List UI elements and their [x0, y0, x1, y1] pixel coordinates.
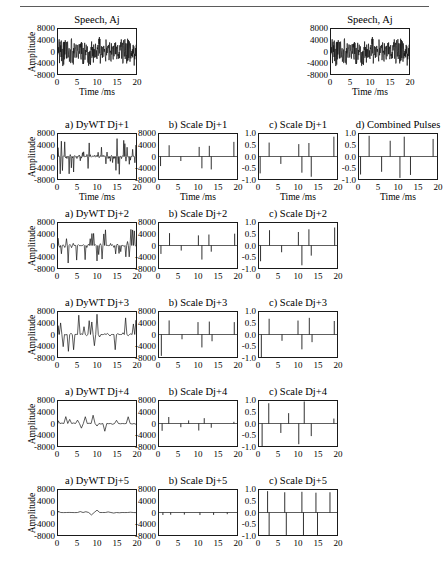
y-tick-label: 0 — [152, 419, 157, 428]
x-tick-label: 5 — [276, 449, 281, 459]
x-tick-label: 5 — [75, 271, 80, 281]
y-tick-label: -4000 — [34, 59, 55, 68]
x-axis-title-dj1-b: Time /ms — [158, 192, 238, 203]
y-tick-label: -0.5 — [242, 342, 256, 351]
y-tick-label: -4000 — [34, 253, 55, 262]
y-tick-label: -1.0 — [242, 532, 256, 541]
x-axis-tick-labels: 05101520 — [258, 360, 338, 371]
y-tick-label: 0 — [51, 419, 56, 428]
y-tick-label: 0.5 — [245, 229, 256, 238]
y-tick-label: 1.0 — [245, 218, 256, 227]
x-tick-label: 10 — [194, 271, 203, 281]
x-tick-label: 10 — [366, 77, 375, 87]
x-tick-label: 5 — [75, 360, 80, 370]
y-tick-label: 8000 — [37, 396, 55, 405]
y-axis-tick-labels: 1.00.50.0-0.5-1.0 — [224, 489, 256, 536]
y-tick-label: 0.5 — [245, 318, 256, 327]
x-tick-label: 0 — [55, 77, 60, 87]
y-tick-label: 8000 — [37, 218, 55, 227]
x-axis-title-dj1-c: Time /ms — [258, 192, 338, 203]
y-tick-label: -1.0 — [342, 176, 356, 185]
y-tick-label: -1.0 — [242, 176, 256, 185]
x-tick-label: 15 — [113, 538, 122, 548]
y-tick-label: 0.5 — [345, 140, 356, 149]
x-tick-label: 0 — [256, 182, 261, 192]
x-tick-label: 0 — [55, 182, 60, 192]
y-tick-label: 8000 — [37, 24, 55, 33]
y-tick-label: -4000 — [34, 342, 55, 351]
y-tick-label: -4000 — [135, 253, 156, 262]
x-axis-tick-labels: 05101520 — [258, 449, 338, 460]
x-axis-title-speech-right: Time /ms — [330, 87, 410, 98]
x-tick-label: 15 — [113, 360, 122, 370]
y-tick-label: -8000 — [135, 176, 156, 185]
x-tick-label: 10 — [93, 449, 102, 459]
y-tick-label: 4000 — [37, 407, 55, 416]
y-tick-label: 4000 — [37, 229, 55, 238]
y-tick-label: -8000 — [34, 532, 55, 541]
y-tick-label: -4000 — [135, 431, 156, 440]
y-axis-tick-labels: 800040000-4000-8000 — [124, 133, 156, 180]
y-tick-label: 8000 — [138, 129, 156, 138]
y-tick-label: -0.5 — [242, 253, 256, 262]
y-tick-label: 1.0 — [345, 129, 356, 138]
x-tick-label: 5 — [75, 77, 80, 87]
x-tick-label: 5 — [276, 360, 281, 370]
y-tick-label: 4000 — [138, 407, 156, 416]
x-tick-label: 10 — [93, 538, 102, 548]
x-tick-label: 5 — [176, 360, 181, 370]
y-tick-label: 1.0 — [245, 129, 256, 138]
y-tick-label: -1.0 — [242, 443, 256, 452]
x-axis-tick-labels: 05101520 — [158, 449, 238, 460]
y-tick-label: -8000 — [307, 71, 328, 80]
x-tick-label: 0 — [156, 271, 161, 281]
y-tick-label: 0 — [152, 508, 157, 517]
y-tick-label: 8000 — [37, 129, 55, 138]
y-tick-label: 0 — [51, 508, 56, 517]
y-tick-label: -0.5 — [342, 164, 356, 173]
x-tick-label: 20 — [133, 77, 142, 87]
x-tick-label: 10 — [194, 360, 203, 370]
x-axis-tick-labels: 05101520 — [57, 360, 137, 371]
x-tick-label: 0 — [55, 449, 60, 459]
y-tick-label: -8000 — [34, 71, 55, 80]
x-tick-label: 5 — [75, 182, 80, 192]
plot-box-speech-left — [57, 28, 137, 75]
y-axis-tick-labels: 800040000-4000-8000 — [124, 222, 156, 269]
y-axis-title-speech-left: Amplitude — [27, 7, 37, 97]
plot-box-dj3-c — [258, 311, 338, 358]
y-tick-label: 4000 — [37, 140, 55, 149]
x-tick-label: 15 — [214, 538, 223, 548]
x-tick-label: 5 — [176, 271, 181, 281]
y-tick-label: -1.0 — [242, 354, 256, 363]
x-tick-label: 15 — [214, 360, 223, 370]
y-tick-label: 0 — [152, 330, 157, 339]
y-tick-label: 0 — [51, 330, 56, 339]
x-tick-label: 5 — [75, 449, 80, 459]
x-tick-label: 0 — [55, 271, 60, 281]
x-tick-label: 15 — [214, 182, 223, 192]
x-axis-tick-labels: 05101520 — [158, 360, 238, 371]
x-tick-label: 15 — [414, 182, 423, 192]
y-tick-label: 4000 — [138, 496, 156, 505]
x-axis-tick-labels: 05101520 — [158, 271, 238, 282]
y-axis-tick-labels: 800040000-4000-8000 — [124, 400, 156, 447]
x-axis-tick-labels: 05101520 — [57, 538, 137, 549]
y-axis-tick-labels: 1.00.50.0-0.5-1.0 — [324, 133, 356, 180]
x-tick-label: 15 — [113, 271, 122, 281]
y-tick-label: 4000 — [37, 496, 55, 505]
x-tick-label: 0 — [256, 449, 261, 459]
y-tick-label: -8000 — [34, 443, 55, 452]
y-tick-label: 4000 — [37, 35, 55, 44]
y-tick-label: 1.0 — [245, 396, 256, 405]
y-tick-label: 8000 — [138, 218, 156, 227]
x-tick-label: 0 — [256, 271, 261, 281]
y-tick-label: 1.0 — [245, 307, 256, 316]
x-axis-tick-labels: 05101520 — [57, 271, 137, 282]
x-tick-label: 10 — [294, 360, 303, 370]
y-tick-label: -8000 — [34, 176, 55, 185]
y-tick-label: -4000 — [135, 164, 156, 173]
x-tick-label: 20 — [406, 77, 415, 87]
y-tick-label: 0 — [51, 241, 56, 250]
